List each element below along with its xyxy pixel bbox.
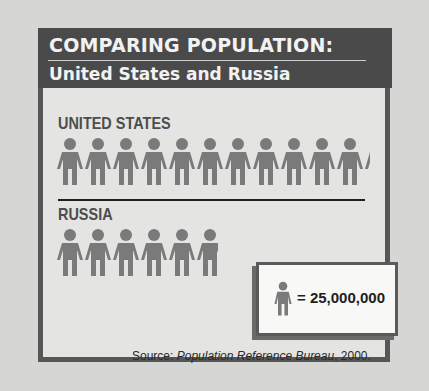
row-label-united-states: UNITED STATES: [58, 114, 171, 134]
title-divider: [48, 60, 366, 61]
person-icon: [196, 137, 224, 187]
person-icon: [168, 137, 196, 187]
person-icon: [56, 228, 84, 278]
legend-key: = 25,000,000: [256, 262, 398, 336]
person-icon: [112, 228, 140, 278]
source-suffix: , 2000.: [334, 349, 371, 363]
person-icon: [252, 137, 280, 187]
chart-subtitle: United States and Russia: [49, 64, 290, 84]
person-icon: [140, 137, 168, 187]
person-icon: [140, 228, 168, 278]
person-icon: [364, 137, 370, 187]
person-icon: [56, 137, 84, 187]
person-icon: [273, 279, 293, 319]
chart-title: COMPARING POPULATION:: [49, 34, 333, 56]
person-icon: [224, 137, 252, 187]
source-prefix: Source:: [132, 349, 177, 363]
person-icon: [84, 137, 112, 187]
row-divider: [58, 199, 365, 201]
person-icon: [168, 228, 196, 278]
row-label-russia: RUSSIA: [58, 205, 113, 225]
person-icon: [336, 137, 364, 187]
person-icon: [84, 228, 112, 278]
person-icon: [308, 137, 336, 187]
person-icon: [196, 228, 218, 278]
person-icon: [280, 137, 308, 187]
chart-header: COMPARING POPULATION: United States and …: [38, 28, 392, 88]
legend-value: = 25,000,000: [297, 289, 385, 306]
united-states-figures: [56, 137, 370, 187]
source-citation: Source: Population Reference Bureau, 200…: [132, 349, 371, 363]
russia-figures: [56, 228, 218, 278]
source-publication: Population Reference Bureau: [177, 349, 334, 363]
person-icon: [112, 137, 140, 187]
